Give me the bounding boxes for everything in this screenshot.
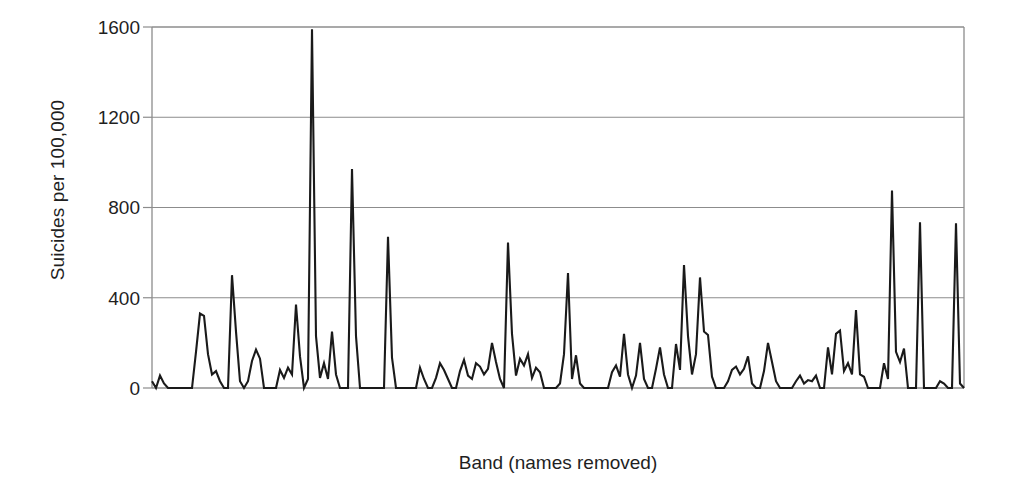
y-axis-ticks	[143, 27, 152, 388]
data-series-line	[152, 29, 964, 388]
chart-figure: Suicides per 100,000 1600 1200 800 400 0…	[0, 0, 1015, 477]
y-tick-label-400: 400	[60, 288, 140, 310]
y-tick-label-0: 0	[60, 378, 140, 400]
x-axis-title: Band (names removed)	[152, 452, 964, 474]
plot-area	[0, 0, 1015, 477]
y-tick-label-800: 800	[60, 197, 140, 219]
y-axis-tick-labels: 1600 1200 800 400 0	[60, 0, 140, 477]
y-tick-label-1200: 1200	[60, 107, 140, 129]
gridlines	[152, 27, 964, 298]
y-tick-label-1600: 1600	[60, 17, 140, 39]
